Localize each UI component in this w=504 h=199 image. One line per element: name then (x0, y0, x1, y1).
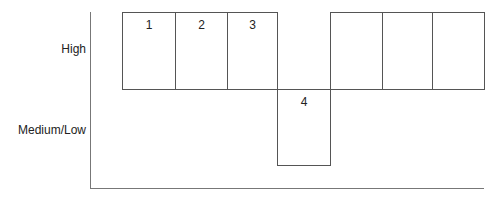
cell-label: 4 (278, 95, 330, 109)
y-label-medium-low: Medium/Low (0, 123, 86, 137)
cell-label: 1 (123, 18, 175, 32)
cell-7 (432, 12, 485, 90)
y-axis (90, 12, 91, 189)
cell-3: 3 (227, 12, 278, 90)
cell-label: 2 (176, 18, 227, 32)
cell-4: 4 (277, 89, 331, 166)
cell-5 (330, 12, 383, 90)
cell-6 (382, 12, 433, 90)
cell-label: 3 (228, 18, 277, 32)
cell-2: 2 (175, 12, 228, 90)
y-label-high: High (0, 42, 86, 56)
x-axis (90, 188, 484, 189)
baseline-left (122, 89, 277, 90)
cell-1: 1 (122, 12, 176, 90)
